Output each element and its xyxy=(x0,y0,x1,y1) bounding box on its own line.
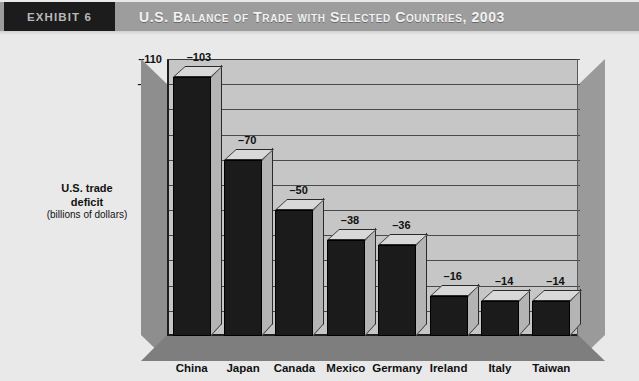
bar-front-face xyxy=(327,240,365,336)
bar-italy[interactable]: –14 xyxy=(481,59,531,336)
bar-chart: U.S. trade deficit (billions of dollars)… xyxy=(0,35,639,381)
exhibit-number-badge: EXHIBIT 6 xyxy=(4,2,115,31)
bar-side-face xyxy=(416,233,427,336)
bar-japan[interactable]: –70 xyxy=(224,59,274,336)
bar-front-face xyxy=(173,77,211,336)
exhibit-header-bar: EXHIBIT 6 U.S. Balance of Trade with Sel… xyxy=(0,2,639,31)
chart-3d-left-wall xyxy=(141,59,168,361)
bar-front-face xyxy=(224,160,262,336)
exhibit-title: U.S. Balance of Trade with Selected Coun… xyxy=(139,2,505,31)
bar-taiwan[interactable]: –14 xyxy=(532,59,582,336)
bar-front-face xyxy=(275,210,313,336)
x-axis-tick-taiwan: Taiwan xyxy=(516,362,586,374)
bar-value-label: –14 xyxy=(495,275,513,287)
bar-side-face xyxy=(262,148,273,336)
bar-side-face xyxy=(211,64,222,336)
bar-value-label: –70 xyxy=(238,134,256,146)
bar-front-face xyxy=(378,245,416,336)
bar-germany[interactable]: –36 xyxy=(378,59,428,336)
bar-value-label: –14 xyxy=(546,275,564,287)
bar-value-label: –103 xyxy=(187,51,211,63)
bar-china[interactable]: –103 xyxy=(173,59,223,336)
bar-side-face xyxy=(365,228,376,336)
y-axis-tick-110: –110 xyxy=(96,53,162,65)
x-axis-tick-labels: ChinaJapanCanadaMexicoGermanyIrelandItal… xyxy=(141,362,605,381)
bar-value-label: –16 xyxy=(444,270,462,282)
bar-front-face xyxy=(430,296,468,336)
bar-value-label: –50 xyxy=(289,184,307,196)
bar-canada[interactable]: –50 xyxy=(275,59,325,336)
bar-value-label: –38 xyxy=(341,214,359,226)
bar-mexico[interactable]: –38 xyxy=(327,59,377,336)
bar-front-face xyxy=(532,301,570,336)
bar-front-face xyxy=(481,301,519,336)
chart-3d-floor xyxy=(141,335,605,362)
bar-side-face xyxy=(313,198,324,336)
bar-value-label: –36 xyxy=(392,219,410,231)
exhibit-number-label: EXHIBIT 6 xyxy=(27,11,92,23)
bar-series: –103–70–50–38–36–16–14–14 xyxy=(167,59,578,336)
bar-ireland[interactable]: –16 xyxy=(430,59,480,336)
